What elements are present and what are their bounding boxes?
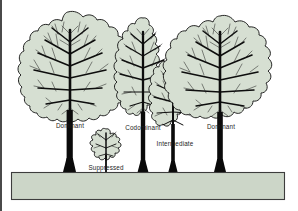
tree-dominant-right: Dominant <box>163 15 272 172</box>
trunk-flare-intermediate <box>168 161 177 172</box>
tree-suppressed: Suppressed <box>88 128 123 172</box>
label-suppressed: Suppressed <box>88 164 123 172</box>
label-dominant-right: Dominant <box>207 123 235 130</box>
trunk-flare-dominant-right <box>214 159 226 172</box>
ground-bar <box>12 173 285 200</box>
label-dominant-left: Dominant <box>56 122 84 129</box>
trunk-flare-dominant-left <box>63 158 76 172</box>
label-intermediate: Intermediate <box>157 140 194 147</box>
forest-crown-class-diagram: Dominant Suppressed <box>0 0 298 211</box>
figure-canvas: Dominant Suppressed <box>0 0 298 211</box>
trunk-flare-codominant <box>138 160 149 172</box>
label-codominant: Codominant <box>125 124 161 131</box>
